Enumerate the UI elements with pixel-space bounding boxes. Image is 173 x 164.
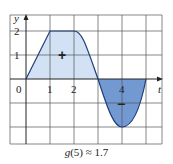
chart-figure: y 2 1 0 1 2 4 t + − bbox=[0, 0, 173, 164]
y-tick-1: 1 bbox=[14, 49, 20, 61]
caption: g(5) ≈ 1.7 bbox=[0, 146, 173, 158]
caption-value: (5) ≈ 1.7 bbox=[70, 146, 108, 158]
y-tick-2: 2 bbox=[14, 25, 20, 37]
minus-sign: − bbox=[117, 96, 125, 112]
x-tick-4: 4 bbox=[119, 83, 125, 95]
plus-sign: + bbox=[58, 47, 66, 63]
x-tick-1: 1 bbox=[47, 83, 53, 95]
y-axis-label: y bbox=[13, 12, 19, 24]
t-axis-label: t bbox=[158, 83, 162, 95]
x-tick-2: 2 bbox=[71, 83, 77, 95]
origin-label: 0 bbox=[16, 83, 22, 95]
